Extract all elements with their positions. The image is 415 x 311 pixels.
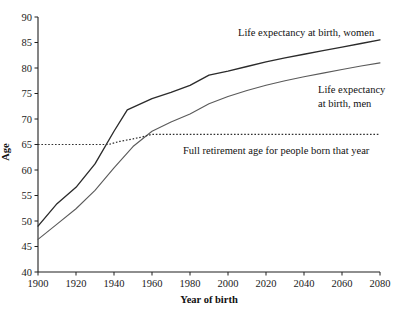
x-tick-label: 1940 xyxy=(104,278,125,289)
x-tick-label: 2080 xyxy=(370,278,391,289)
life-expectancy-chart: 4045505560657075808590 19001920194019601… xyxy=(0,0,415,311)
y-tick-label: 50 xyxy=(22,216,33,227)
x-tick-label: 2000 xyxy=(218,278,239,289)
x-tick-label: 2020 xyxy=(256,278,277,289)
x-axis-ticks: 1900192019401960198020002020204020602080 xyxy=(28,272,391,289)
series-line-0 xyxy=(38,40,380,226)
x-axis-title: Year of birth xyxy=(180,294,238,305)
x-tick-label: 2060 xyxy=(332,278,353,289)
y-tick-label: 70 xyxy=(22,114,33,125)
x-tick-label: 1980 xyxy=(180,278,201,289)
annotation-women-label: Life expectancy at birth, women xyxy=(238,27,375,38)
series-line-2 xyxy=(38,134,380,144)
annotation-group: Life expectancy at birth, womenLife expe… xyxy=(183,27,386,156)
x-tick-label: 1900 xyxy=(28,278,49,289)
y-tick-label: 40 xyxy=(22,267,33,278)
chart-canvas: 4045505560657075808590 19001920194019601… xyxy=(0,0,415,311)
y-tick-label: 75 xyxy=(22,88,33,99)
y-tick-label: 60 xyxy=(22,165,33,176)
y-axis-title: Age xyxy=(0,143,11,161)
y-axis-ticks: 4045505560657075808590 xyxy=(22,12,39,278)
y-tick-label: 65 xyxy=(22,139,33,150)
x-tick-label: 1920 xyxy=(66,278,87,289)
annotation-retirement-label: Full retirement age for people born that… xyxy=(183,145,370,156)
y-tick-label: 55 xyxy=(22,190,33,201)
x-tick-label: 1960 xyxy=(142,278,163,289)
y-tick-label: 80 xyxy=(22,63,33,74)
annotation-men-label-line1: Life expectancy xyxy=(318,84,386,95)
series-group xyxy=(38,40,380,239)
y-tick-label: 85 xyxy=(22,37,33,48)
annotation-men-label-line2: at birth, men xyxy=(318,98,372,109)
y-tick-label: 45 xyxy=(22,241,33,252)
x-tick-label: 2040 xyxy=(294,278,315,289)
y-tick-label: 90 xyxy=(22,12,33,23)
